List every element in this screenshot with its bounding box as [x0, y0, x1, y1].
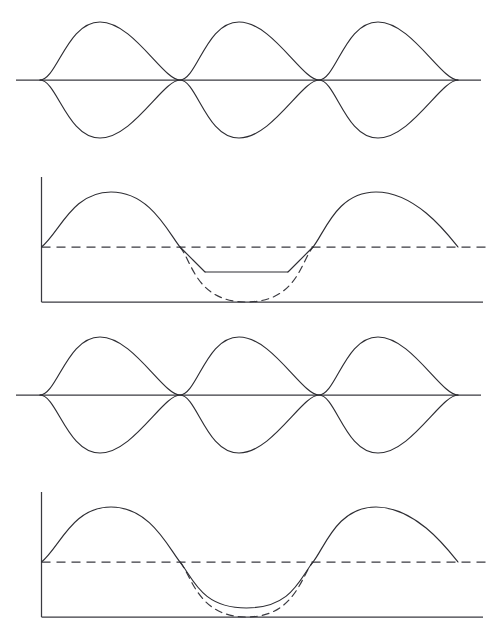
sine-envelope-upper-curve — [40, 22, 458, 80]
clipped-descent-segment — [180, 247, 205, 272]
clipped-waveform-svg — [0, 160, 504, 320]
figure-root: Waveform distortion and standing wave di… — [0, 0, 504, 633]
clipped-waveform-second-hump — [313, 192, 458, 247]
compressed-waveform-curve — [42, 507, 459, 608]
standing-wave-lower-svg — [0, 320, 504, 480]
clipped-waveform-curve — [42, 192, 181, 247]
sine-envelope-lower-curve — [40, 80, 458, 138]
panel-compressed-waveform — [0, 473, 504, 633]
compressed-waveform-svg — [0, 473, 504, 633]
panel-standing-wave-upper — [0, 0, 504, 160]
sine-envelope-upper-curve — [40, 337, 458, 395]
sine-envelope-lower-curve — [40, 395, 458, 453]
panel-standing-wave-lower — [0, 320, 504, 480]
original-sine-trough-dashed — [180, 247, 313, 302]
standing-wave-upper-svg — [0, 0, 504, 160]
panel-clipped-waveform — [0, 160, 504, 320]
clipped-ascent-segment — [288, 247, 313, 272]
